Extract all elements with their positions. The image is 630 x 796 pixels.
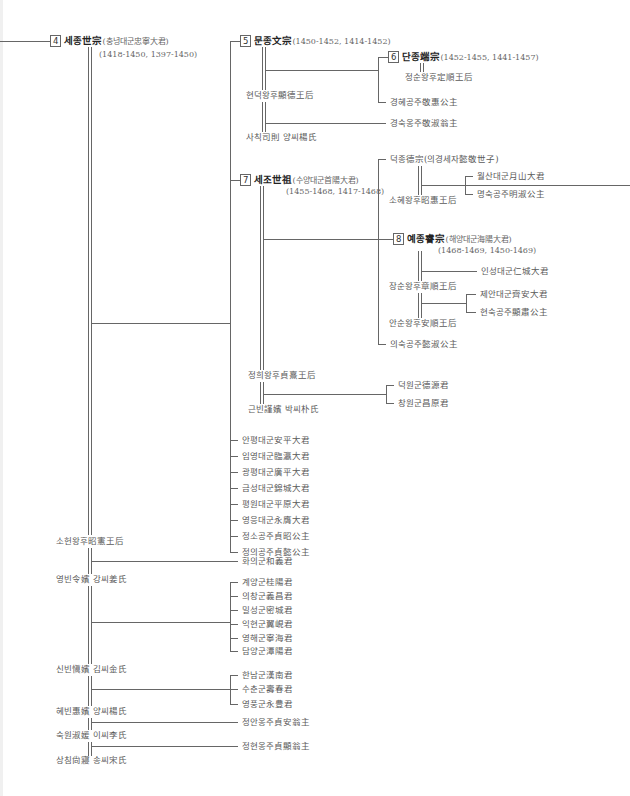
child[interactable]: 안평대군安平大君	[242, 435, 310, 446]
connector	[466, 294, 467, 312]
king-number: 4	[50, 35, 61, 47]
king-number: 8	[393, 233, 404, 245]
consort[interactable]: 영빈令嬪 강씨姜氏	[56, 574, 127, 585]
consort[interactable]: 정순왕후定順王后	[405, 72, 473, 83]
child[interactable]: 금성대군錦城大君	[242, 483, 310, 494]
child[interactable]: 임영대군臨瀛大君	[242, 451, 310, 462]
king-sejong[interactable]: 4세종世宗(충녕대군忠寧大君)	[50, 35, 169, 48]
connector	[91, 746, 238, 747]
marriage-line	[421, 251, 422, 281]
child[interactable]: 경혜공주敬惠公主	[390, 97, 458, 108]
connector	[265, 70, 378, 71]
consort[interactable]: 소혜왕후昭惠王后	[389, 195, 457, 206]
marriage-line	[418, 293, 419, 318]
child[interactable]: 계양군桂陽君	[242, 577, 293, 588]
child[interactable]: 광평대군廣平大君	[242, 467, 310, 478]
marriage-line	[88, 742, 89, 756]
marriage-line	[423, 63, 424, 72]
connector	[378, 159, 379, 344]
connector	[230, 504, 238, 505]
consort[interactable]: 숙원淑媛 이씨李氏	[56, 730, 127, 741]
king-name: 단종端宗	[402, 51, 440, 62]
child[interactable]: 명숙공주明淑公主	[477, 189, 545, 200]
child[interactable]: 익현군翼峴君	[242, 619, 293, 630]
child[interactable]: 화의군和義君	[242, 556, 293, 567]
consort[interactable]: 신빈愼嬪 김씨金氏	[56, 664, 127, 675]
child[interactable]: 평원대군平原大君	[242, 499, 310, 510]
connector	[91, 622, 230, 623]
connector	[230, 624, 238, 625]
consort[interactable]: 상침尙寢 송씨宋氏	[56, 755, 127, 766]
child[interactable]: 의창군義昌君	[242, 591, 293, 602]
connector	[263, 394, 386, 395]
king-danjong[interactable]: 6단종端宗(1452-1455, 1441-1457)	[388, 51, 539, 64]
marriage-line	[418, 166, 419, 195]
king-dates: (1450-1452, 1414-1452)	[292, 37, 390, 46]
consort[interactable]: 사칙司則 양씨楊氏	[246, 132, 317, 143]
connector	[265, 123, 386, 124]
child[interactable]: 한남군漢南君	[242, 670, 293, 681]
child[interactable]: 수춘군壽春君	[242, 684, 293, 695]
child[interactable]: 창원군昌原君	[398, 398, 449, 409]
consort[interactable]: 혜빈惠嬪 양씨楊氏	[56, 706, 127, 717]
king-title: (충녕대군忠寧大君)	[102, 37, 168, 46]
connector	[465, 176, 466, 194]
child[interactable]: 제안대군齊安大君	[480, 289, 548, 300]
king-number: 7	[240, 174, 251, 186]
child[interactable]: 인성대군仁城大君	[481, 266, 549, 277]
marriage-line	[262, 102, 263, 132]
connector	[230, 582, 231, 651]
child[interactable]: 영풍군永豊君	[242, 699, 293, 710]
connector	[466, 294, 476, 295]
consort[interactable]: 현덕왕후顯德王后	[246, 90, 314, 101]
consort[interactable]: 안순왕후安順王后	[389, 318, 457, 329]
connector	[230, 527, 231, 553]
child[interactable]: 덕원군德源君	[398, 380, 449, 391]
connector	[230, 472, 238, 473]
child[interactable]: 의숙공주懿淑公主	[390, 339, 458, 350]
marriage-line	[420, 63, 421, 72]
child[interactable]: 영응대군永膺大君	[242, 515, 310, 526]
connector	[91, 689, 238, 690]
child[interactable]: 정안옹주貞安翁主	[242, 717, 310, 728]
child[interactable]: 정현옹주貞顯翁主	[242, 741, 310, 752]
marriage-line	[88, 47, 89, 535]
connector	[421, 303, 466, 304]
consort[interactable]: 근빈謹嬪 박씨朴氏	[248, 404, 319, 415]
connector	[91, 561, 238, 562]
king-name: 문종文宗	[254, 35, 292, 46]
marriage-line	[263, 382, 264, 404]
king-dates: (1455-1468, 1417-1468)	[286, 186, 384, 197]
connector	[230, 596, 238, 597]
child[interactable]: 밀성군密城君	[242, 605, 293, 616]
child[interactable]: 정소공주貞昭公主	[242, 531, 310, 542]
marriage-line	[265, 102, 266, 132]
connector	[378, 102, 386, 103]
child[interactable]: 경숙옹주敬淑翁主	[390, 118, 458, 129]
marriage-line	[91, 586, 92, 664]
marriage-line	[88, 548, 89, 574]
consort[interactable]: 정희왕후貞熹王后	[248, 370, 316, 381]
king-title: (해양대군海陽大君)	[445, 235, 511, 244]
connector	[230, 651, 238, 652]
connector	[378, 159, 386, 160]
marriage-line	[88, 676, 89, 706]
connector	[230, 552, 238, 553]
connector	[230, 675, 231, 704]
marriage-line	[91, 742, 92, 756]
connector	[465, 194, 473, 195]
connector	[0, 41, 50, 42]
connector	[263, 239, 378, 240]
child[interactable]: 담양군潭陽君	[242, 646, 293, 657]
consort[interactable]: 소헌왕후昭憲王后	[56, 536, 124, 547]
child[interactable]: 현숙공주顯肅公主	[480, 307, 548, 318]
connector	[378, 57, 388, 58]
connector	[378, 57, 379, 102]
consort[interactable]: 장순왕후章順王后	[389, 281, 457, 292]
child[interactable]: 월산대군月山大君	[477, 171, 545, 182]
king-name: 예종睿宗	[407, 233, 445, 244]
connector	[421, 271, 477, 272]
deokjong[interactable]: 덕종德宗(의경세자懿敬世子)	[390, 154, 499, 165]
child[interactable]: 영해군寧海君	[242, 633, 293, 644]
connector	[230, 41, 240, 42]
